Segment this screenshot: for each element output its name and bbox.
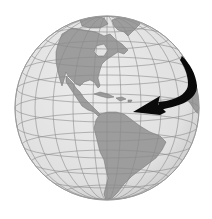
globe-figure: Grayscale orthographic globe showing Nor…: [0, 0, 212, 219]
puerto-rico: [128, 100, 132, 102]
europe: [176, 30, 200, 54]
globe-illustration: [0, 0, 212, 219]
